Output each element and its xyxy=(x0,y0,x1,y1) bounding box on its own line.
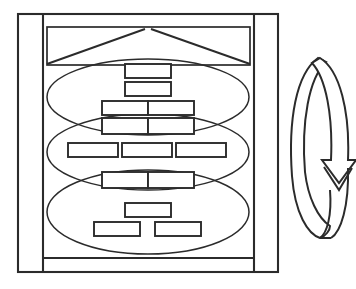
node-t1-d xyxy=(148,101,194,115)
node-t3-c xyxy=(125,203,171,217)
node-t1-a xyxy=(125,64,171,78)
cyclic-arrow-icon xyxy=(291,58,356,238)
loop-right-band-with-arrowhead xyxy=(312,58,356,183)
node-t2-e xyxy=(176,143,226,157)
node-t3-d xyxy=(94,222,140,236)
node-t3-b xyxy=(148,172,194,188)
chevron-left-line xyxy=(47,29,145,64)
node-t3-e xyxy=(155,222,201,236)
diagram-canvas xyxy=(0,0,356,289)
node-t1-c xyxy=(102,101,148,115)
node-t2-d xyxy=(122,143,172,157)
node-t3-a xyxy=(102,172,148,188)
diagram-svg xyxy=(0,0,356,289)
node-t2-b xyxy=(148,118,194,134)
node-t1-b xyxy=(125,82,171,96)
chevron-right-line xyxy=(151,29,250,64)
node-box-layer xyxy=(68,64,226,236)
node-t2-c xyxy=(68,143,118,157)
node-t2-a xyxy=(102,118,148,134)
